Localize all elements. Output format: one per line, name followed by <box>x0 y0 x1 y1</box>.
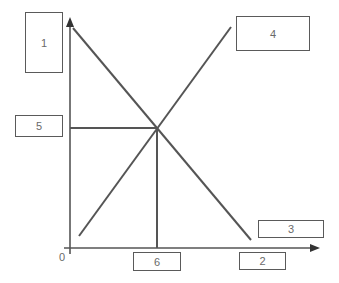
label-box-5-text: 5 <box>36 120 42 132</box>
y-axis-arrow-icon <box>66 17 74 27</box>
label-box-6-text: 6 <box>154 256 160 268</box>
origin-label: 0 <box>59 251 65 263</box>
upward-sloping-line <box>79 27 231 236</box>
label-box-2[interactable]: 2 <box>239 252 286 270</box>
label-box-2-text: 2 <box>259 255 265 267</box>
label-box-6[interactable]: 6 <box>133 252 181 271</box>
label-box-1[interactable]: 1 <box>25 12 63 73</box>
label-box-3[interactable]: 3 <box>258 220 324 238</box>
label-box-3-text: 3 <box>288 223 294 235</box>
label-box-5[interactable]: 5 <box>15 115 63 137</box>
label-box-4[interactable]: 4 <box>236 16 310 51</box>
x-axis-arrow-icon <box>310 244 320 252</box>
label-box-4-text: 4 <box>270 28 276 40</box>
label-box-1-text: 1 <box>41 37 47 49</box>
